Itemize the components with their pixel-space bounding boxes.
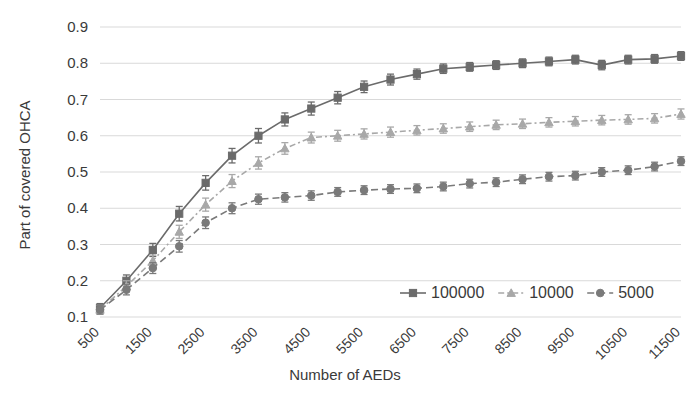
series-marker <box>651 163 659 171</box>
x-tick-label: 500 <box>74 324 102 352</box>
series-marker <box>545 58 552 65</box>
series-marker <box>466 63 473 70</box>
series-marker <box>255 132 262 139</box>
y-tick-label: 0.5 <box>67 163 88 180</box>
series-marker <box>334 188 342 196</box>
series-marker <box>545 118 553 126</box>
y-tick-label: 0.2 <box>67 272 88 289</box>
series-marker <box>572 56 579 63</box>
series-marker <box>596 289 604 297</box>
series-marker <box>492 178 500 186</box>
series-marker <box>281 144 289 152</box>
legend-label: 10000 <box>529 284 574 301</box>
x-tick-label: 4500 <box>280 324 313 357</box>
series-marker <box>202 179 209 186</box>
series-marker <box>413 185 421 193</box>
series-marker <box>387 76 394 83</box>
series-marker <box>677 52 684 59</box>
series-marker <box>572 172 580 180</box>
series-marker <box>307 133 315 141</box>
series-marker <box>149 246 156 253</box>
y-tick-label: 0.1 <box>67 308 88 325</box>
series-5000 <box>96 157 685 314</box>
x-axis-tick-labels: 5001500250035004500550065007500850095001… <box>74 324 683 363</box>
x-tick-label: 1500 <box>122 324 155 357</box>
series-marker <box>409 289 416 296</box>
series-group <box>96 52 685 314</box>
series-marker <box>175 243 183 251</box>
series-line <box>100 161 681 310</box>
x-axis-title: Number of AEDs <box>289 366 401 383</box>
y-axis-title: Part of covered OHCA <box>16 100 33 249</box>
series-100000 <box>96 52 684 313</box>
legend-item-10000[interactable]: 10000 <box>498 284 574 301</box>
x-tick-label: 3500 <box>227 324 260 357</box>
series-marker <box>228 152 235 159</box>
series-marker <box>624 166 632 174</box>
series-marker <box>202 219 210 227</box>
x-tick-label: 11500 <box>645 324 683 362</box>
y-tick-label: 0.4 <box>67 199 88 216</box>
series-marker <box>387 185 395 193</box>
series-marker <box>518 120 526 128</box>
series-marker <box>123 286 131 294</box>
series-line <box>100 56 681 308</box>
series-marker <box>598 168 606 176</box>
series-marker <box>281 116 288 123</box>
y-tick-label: 0.9 <box>67 18 88 35</box>
series-marker <box>651 55 658 62</box>
x-tick-label: 6500 <box>386 324 419 357</box>
legend-label: 5000 <box>618 284 654 301</box>
x-tick-label: 5500 <box>333 324 366 357</box>
legend-item-100000[interactable]: 100000 <box>400 284 484 301</box>
series-marker <box>255 195 263 203</box>
series-marker <box>519 175 527 183</box>
series-marker <box>413 71 420 78</box>
series-marker <box>307 192 315 200</box>
x-tick-label: 7500 <box>439 324 472 357</box>
series-marker <box>440 65 447 72</box>
series-marker <box>176 210 183 217</box>
series-marker <box>440 183 448 191</box>
series-marker <box>96 306 104 314</box>
y-axis-tick-labels: 0.10.20.30.40.50.60.70.80.9 <box>67 18 88 325</box>
y-tick-label: 0.6 <box>67 127 88 144</box>
series-marker <box>677 110 685 118</box>
series-marker <box>308 105 315 112</box>
series-marker <box>545 173 553 181</box>
x-tick-label: 2500 <box>174 324 207 357</box>
series-marker <box>334 94 341 101</box>
series-10000 <box>96 109 685 314</box>
line-chart: 0.10.20.30.40.50.60.70.80.9 500150025003… <box>0 0 687 411</box>
y-tick-label: 0.8 <box>67 54 88 71</box>
x-tick-label: 10500 <box>591 324 630 363</box>
series-marker <box>228 204 236 212</box>
series-marker <box>228 177 236 185</box>
series-marker <box>625 56 632 63</box>
series-marker <box>254 159 262 167</box>
chart-container: 0.10.20.30.40.50.60.70.80.9 500150025003… <box>0 0 687 411</box>
series-marker <box>201 200 209 208</box>
series-marker <box>149 264 157 272</box>
series-marker <box>519 60 526 67</box>
x-tick-label: 9500 <box>544 324 577 357</box>
y-tick-label: 0.7 <box>67 91 88 108</box>
series-marker <box>360 83 367 90</box>
series-marker <box>493 61 500 68</box>
series-marker <box>360 186 368 194</box>
series-marker <box>466 180 474 188</box>
series-marker <box>598 61 605 68</box>
legend-label: 100000 <box>431 284 484 301</box>
series-marker <box>677 157 685 165</box>
series-marker <box>281 194 289 202</box>
y-tick-label: 0.3 <box>67 236 88 253</box>
x-tick-label: 8500 <box>491 324 524 357</box>
legend: 100000100005000 <box>400 284 654 301</box>
gridlines <box>100 27 681 317</box>
legend-item-5000[interactable]: 5000 <box>587 284 654 301</box>
